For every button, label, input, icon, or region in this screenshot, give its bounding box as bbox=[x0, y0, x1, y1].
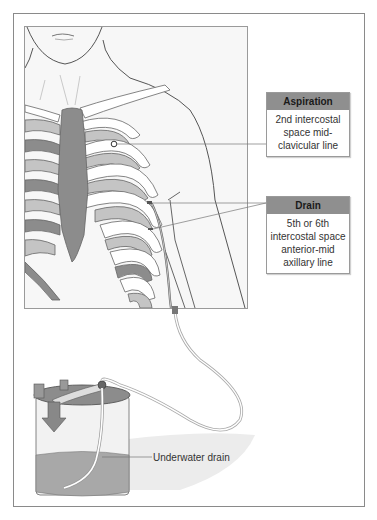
underwater-drain-label: Underwater drain bbox=[153, 452, 230, 463]
aspiration-label-title: Aspiration bbox=[267, 93, 349, 110]
torso-drawing bbox=[25, 27, 245, 308]
aspiration-label-body: 2nd intercostal space mid-clavicular lin… bbox=[267, 110, 349, 156]
aspiration-label: Aspiration 2nd intercostal space mid-cla… bbox=[266, 92, 350, 157]
drain-leader-line-2 bbox=[153, 203, 266, 229]
drain-label-title: Drain bbox=[267, 197, 349, 214]
drain-label-body: 5th or 6th intercostal space anterior-mi… bbox=[267, 214, 349, 273]
underwater-seal-jar bbox=[34, 380, 130, 496]
drain-label: Drain 5th or 6th intercostal space anter… bbox=[266, 196, 350, 274]
